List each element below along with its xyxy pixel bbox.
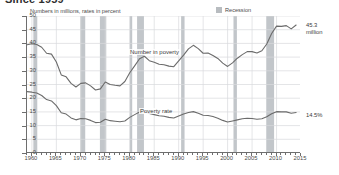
x-tick-mark [276, 153, 277, 156]
y-tick-label: 15 [18, 109, 36, 115]
series-line-number-in-poverty [27, 25, 296, 90]
x-tick-label: 1960 [18, 156, 44, 162]
x-tick-mark [241, 153, 242, 155]
y-tick-label: 30 [18, 68, 36, 74]
y-tick-mark [22, 85, 26, 86]
x-tick-mark [173, 153, 174, 155]
x-tick-mark [266, 153, 267, 155]
plot-area [26, 16, 300, 153]
x-tick-mark [271, 153, 272, 155]
y-tick-label: 10 [18, 123, 36, 129]
y-tick-mark [22, 16, 26, 17]
y-tick-mark [22, 139, 26, 140]
x-tick-mark [232, 153, 233, 155]
callout-number-value: 45.3 [306, 22, 322, 29]
series-label-number-in-poverty: Number in poverty [129, 49, 180, 55]
x-tick-mark [80, 153, 81, 156]
x-tick-label: 1970 [67, 156, 93, 162]
plot-svg [27, 16, 300, 153]
x-tick-mark [70, 153, 71, 155]
x-tick-mark [300, 153, 301, 156]
x-tick-mark [256, 153, 257, 155]
x-tick-mark [143, 153, 144, 155]
x-tick-mark [290, 153, 291, 155]
x-tick-label: 2015 [287, 156, 313, 162]
x-tick-mark [207, 153, 208, 155]
poverty-chart: Since 1959 Numbers in millions, rates in… [0, 0, 339, 175]
x-tick-label: 1965 [42, 156, 68, 162]
callout-number-in-poverty: 45.3 million [306, 22, 322, 35]
y-tick-mark [22, 71, 26, 72]
callout-number-unit: million [306, 29, 322, 36]
series-label-poverty-rate: Poverty rate [139, 108, 173, 114]
callout-poverty-rate: 14.5% [306, 112, 322, 119]
x-tick-label: 2010 [263, 156, 289, 162]
x-tick-mark [236, 153, 237, 155]
x-tick-mark [192, 153, 193, 155]
x-tick-mark [139, 153, 140, 155]
x-tick-mark [124, 153, 125, 155]
x-tick-mark [31, 153, 32, 156]
y-tick-mark [22, 43, 26, 44]
x-tick-mark [134, 153, 135, 155]
callout-rate-value: 14.5% [306, 112, 322, 119]
x-tick-mark [227, 153, 228, 156]
x-tick-mark [153, 153, 154, 156]
x-tick-mark [280, 153, 281, 155]
x-tick-mark [41, 153, 42, 155]
x-tick-label: 1980 [116, 156, 142, 162]
chart-legend: Recession [216, 7, 251, 13]
y-tick-label: 40 [18, 40, 36, 46]
x-tick-mark [168, 153, 169, 155]
x-tick-mark [36, 153, 37, 155]
y-tick-label: 35 [18, 54, 36, 60]
x-tick-mark [65, 153, 66, 155]
x-tick-mark [295, 153, 296, 155]
y-tick-label: 5 [18, 136, 36, 142]
x-tick-mark [114, 153, 115, 155]
legend-item-recession: Recession [225, 7, 251, 13]
chart-title: Since 1959 [5, 0, 64, 5]
x-tick-mark [285, 153, 286, 155]
x-tick-mark [202, 153, 203, 156]
x-tick-mark [187, 153, 188, 155]
x-tick-mark [222, 153, 223, 155]
y-tick-mark [22, 30, 26, 31]
y-tick-label: 45 [18, 27, 36, 33]
x-tick-mark [85, 153, 86, 155]
x-tick-mark [55, 153, 56, 156]
x-tick-label: 1985 [140, 156, 166, 162]
x-tick-mark [119, 153, 120, 155]
x-tick-mark [197, 153, 198, 155]
x-tick-mark [251, 153, 252, 156]
y-tick-mark [22, 112, 26, 113]
x-tick-mark [95, 153, 96, 155]
x-tick-mark [158, 153, 159, 155]
x-tick-mark [26, 153, 27, 155]
y-tick-label: 50 [18, 13, 36, 19]
x-tick-mark [178, 153, 179, 156]
x-tick-mark [148, 153, 149, 155]
x-tick-mark [50, 153, 51, 155]
x-tick-label: 1995 [189, 156, 215, 162]
x-tick-mark [99, 153, 100, 155]
x-tick-mark [60, 153, 61, 155]
x-tick-mark [246, 153, 247, 155]
y-tick-label: 25 [18, 82, 36, 88]
x-tick-label: 2005 [238, 156, 264, 162]
x-tick-mark [46, 153, 47, 155]
x-tick-label: 1990 [165, 156, 191, 162]
y-tick-mark [22, 57, 26, 58]
x-tick-label: 2000 [214, 156, 240, 162]
y-tick-mark [22, 98, 26, 99]
x-tick-mark [217, 153, 218, 155]
y-tick-mark [22, 126, 26, 127]
x-tick-mark [75, 153, 76, 155]
chart-units-note: Numbers in millions, rates in percent [30, 8, 120, 14]
x-tick-mark [129, 153, 130, 156]
x-tick-mark [109, 153, 110, 155]
x-tick-mark [90, 153, 91, 155]
x-tick-mark [163, 153, 164, 155]
x-tick-mark [261, 153, 262, 155]
recession-swatch-icon [216, 7, 222, 13]
